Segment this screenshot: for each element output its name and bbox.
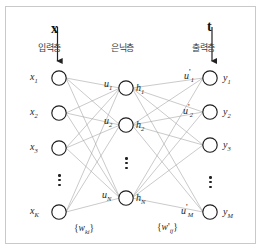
input-node-k-label: xK	[30, 206, 39, 219]
hidden-node-n-act-label: hN	[136, 193, 145, 206]
output-node-m-label: yM	[223, 207, 233, 220]
output-layer-name: 출력층	[192, 44, 215, 53]
hidden-node-1	[119, 81, 133, 95]
target-vector-label: t	[207, 20, 212, 34]
hidden-node-n-pre-label: uN	[102, 190, 111, 203]
input-node-3-label: x3	[30, 142, 38, 155]
output-node-1-label: y1	[223, 73, 231, 86]
diagram-canvas: x t 입력층 은닉층 출력층 x1 x2 x3 xK u1 u2 uN h1 …	[0, 0, 263, 251]
input-ellipsis	[58, 172, 61, 186]
output-node-circles	[203, 71, 217, 219]
output-node-2-pre-label: u'2	[183, 103, 193, 119]
output-node-3-label: y3	[223, 140, 231, 153]
output-node-2	[203, 105, 217, 119]
input-node-circles	[52, 71, 66, 219]
output-node-3	[203, 138, 217, 152]
hidden-node-2-pre-label: u2	[104, 116, 112, 129]
output-node-m	[203, 205, 217, 219]
weight-input-hidden-label: {wki}	[74, 224, 94, 235]
hidden-node-2-act-label: h2	[136, 120, 144, 133]
input-node-k	[52, 205, 66, 219]
input-node-1-label: x1	[30, 72, 38, 85]
hidden-layer-name: 은닉층	[111, 44, 134, 53]
edges-input-to-hidden	[66, 78, 120, 212]
hidden-node-1-pre-label: u1	[104, 79, 112, 92]
output-ellipsis	[209, 174, 212, 188]
hidden-node-1-act-label: h1	[136, 83, 144, 96]
output-node-m-pre-label: u'M	[181, 203, 193, 219]
input-layer-name: 입력층	[38, 44, 61, 53]
input-node-2	[52, 106, 66, 120]
input-vector-label: x	[51, 22, 58, 36]
input-node-3	[52, 141, 66, 155]
hidden-node-2	[119, 118, 133, 132]
input-node-1	[52, 71, 66, 85]
edges-hidden-to-output	[132, 78, 203, 212]
hidden-node-n	[119, 191, 133, 205]
output-node-1-pre-label: u'1	[184, 68, 194, 84]
hidden-node-circles	[119, 81, 133, 205]
weight-hidden-output-label: {w'ij}	[157, 223, 178, 234]
output-node-2-label: y2	[223, 107, 231, 120]
output-node-1	[203, 71, 217, 85]
hidden-ellipsis	[125, 155, 128, 169]
input-node-2-label: x2	[30, 107, 38, 120]
